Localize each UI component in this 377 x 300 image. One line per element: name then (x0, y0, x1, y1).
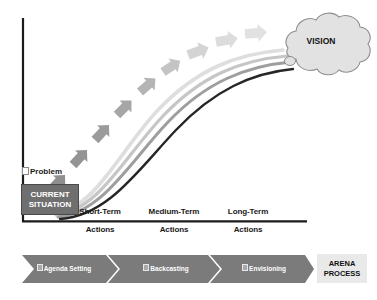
trajectory-paths (55, 50, 293, 219)
current-situation-node[interactable]: CURRENT SITUATION (21, 184, 79, 215)
arena-stage-label-envisioning: Envisioning (228, 264, 300, 272)
arena-stage-label-agenda-setting: Agenda Setting (28, 264, 100, 272)
arena-process-box: ARENA PROCESS (317, 254, 367, 283)
axis-label-long-term-line1: Long-Term (228, 207, 268, 216)
arena-stage-label-backcasting: Backcasting (130, 264, 202, 272)
current-situation-label: CURRENT SITUATION (29, 190, 72, 209)
box-glyph-icon (242, 264, 248, 271)
box-glyph-icon (143, 264, 149, 271)
progress-arrow (89, 119, 115, 145)
progress-arrow (111, 95, 137, 121)
arena-stage-text: Envisioning (249, 265, 286, 272)
diagram-canvas: Problem Structuring CURRENT SITUATION Sh… (0, 0, 377, 300)
progress-arrow (158, 54, 184, 79)
cloud-puff-icon (285, 57, 296, 66)
axis-label-short-term: Short-Term Actions (72, 199, 128, 235)
axis-label-long-term-line2: Actions (234, 225, 263, 234)
progress-arrow (244, 23, 267, 42)
progress-arrow (134, 72, 160, 98)
progress-arrow (185, 39, 212, 63)
problem-structuring-line1: Problem (30, 167, 62, 176)
arena-process-label: ARENA PROCESS (324, 259, 361, 278)
vision-label: VISION (296, 37, 346, 47)
axis-label-short-term-line1: Short-Term (79, 207, 121, 216)
axis-label-short-term-line2: Actions (86, 225, 115, 234)
box-glyph-icon (37, 264, 43, 271)
arena-stage-text: Backcasting (150, 265, 188, 272)
axis-label-long-term: Long-Term Actions (220, 199, 276, 235)
path-lightest (55, 50, 283, 213)
axis-label-medium-term-line2: Actions (160, 225, 189, 234)
arena-stage-text: Agenda Setting (44, 265, 92, 272)
progress-arrow (214, 30, 239, 51)
axis-label-medium-term: Medium-Term Actions (143, 199, 205, 235)
axis-label-medium-term-line1: Medium-Term (149, 207, 200, 216)
box-glyph-icon (22, 167, 29, 175)
